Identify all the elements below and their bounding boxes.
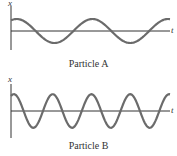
panel-a-t-label: t bbox=[171, 25, 174, 35]
panel-b-x-label: x bbox=[8, 74, 12, 84]
panel-a-x-label: x bbox=[8, 0, 12, 8]
oscillation-diagram bbox=[0, 0, 177, 156]
panel-b-caption: Particle B bbox=[0, 140, 177, 151]
panel-a-caption: Particle A bbox=[0, 58, 177, 69]
panel-b-t-label: t bbox=[171, 105, 174, 115]
